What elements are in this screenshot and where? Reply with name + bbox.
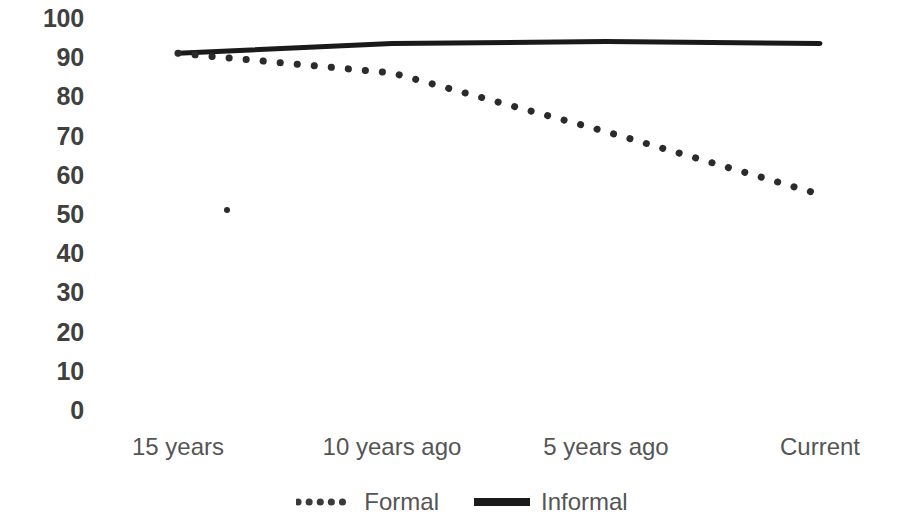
plot-area [0, 0, 924, 430]
legend-label-informal: Informal [541, 490, 628, 514]
legend-item-formal: Formal [296, 490, 439, 514]
x-axis-tick-label: 15 years [132, 432, 224, 462]
x-axis-tick-label: 5 years ago [543, 432, 668, 462]
series-line-informal [178, 42, 820, 54]
series-canvas [0, 0, 924, 430]
dotted-line-icon [296, 495, 354, 509]
legend: Formal Informal [0, 482, 924, 521]
solid-line-icon [473, 495, 531, 509]
legend-item-informal: Informal [473, 490, 628, 514]
series-line-formal [178, 53, 820, 194]
stray-mark-icon [224, 207, 230, 213]
x-axis-tick-label: 10 years ago [323, 432, 462, 462]
x-axis-tick-label: Current [780, 432, 860, 462]
x-axis: 15 years 10 years ago 5 years ago Curren… [0, 432, 924, 468]
line-chart: 100 90 80 70 60 50 40 30 20 10 0 15 year… [0, 0, 924, 521]
legend-label-formal: Formal [364, 490, 439, 514]
